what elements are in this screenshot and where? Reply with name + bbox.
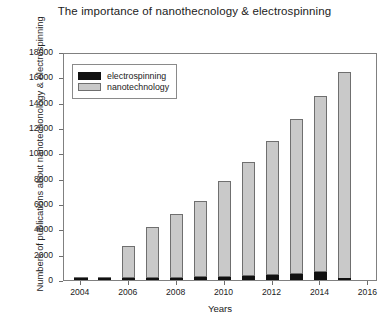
y-tick-label: 6000 (34, 199, 53, 209)
bar-segment-nanotechnology (242, 162, 256, 276)
bar-segment-electrospinning (242, 276, 256, 280)
y-tick-label: 12000 (29, 123, 53, 133)
legend-label-nanotechnology: nanotechnology (107, 82, 169, 92)
legend-item-electrospinning: electrospinning (78, 71, 169, 81)
x-tick-label: 2012 (256, 287, 288, 297)
bar-segment-electrospinning (122, 278, 136, 280)
x-axis-ticks: 2004200620082010201220142016 (63, 281, 377, 305)
x-tick-label: 2004 (64, 287, 96, 297)
bar-segment-nanotechnology (122, 246, 136, 279)
bar-segment-nanotechnology (170, 214, 184, 278)
x-axis-label: Years (63, 303, 377, 314)
legend-label-electrospinning: electrospinning (107, 71, 166, 81)
legend-swatch-nanotechnology (78, 83, 101, 91)
y-tick-label: 14000 (29, 98, 53, 108)
chart-legend: electrospinningnanotechnology (72, 64, 177, 99)
bar-group (122, 246, 136, 280)
x-tick-mark (80, 281, 81, 285)
bar-segment-nanotechnology (338, 72, 352, 279)
y-tick-label: 18000 (29, 47, 53, 57)
bar-segment-nanotechnology (146, 227, 160, 278)
x-tick-label: 2014 (303, 287, 335, 297)
bar-segment-nanotechnology (194, 201, 208, 278)
y-tick-label: 16000 (29, 72, 53, 82)
legend-item-nanotechnology: nanotechnology (78, 82, 169, 92)
chart-figure: The importance of nanothecnology & elect… (0, 0, 389, 329)
x-tick-mark (176, 281, 177, 285)
bar-segment-electrospinning (194, 277, 208, 280)
legend-swatch-electrospinning (78, 72, 101, 80)
bar-group (218, 181, 232, 280)
bar-segment-nanotechnology (218, 181, 232, 277)
x-tick-mark (128, 281, 129, 285)
x-tick-label: 2010 (208, 287, 240, 297)
x-tick-label: 2006 (112, 287, 144, 297)
bar-segment-electrospinning (290, 274, 304, 280)
bar-group (242, 162, 256, 280)
bar-segment-nanotechnology (314, 96, 328, 272)
x-tick-mark (367, 281, 368, 285)
bar-segment-electrospinning (218, 277, 232, 280)
bar-segment-electrospinning (98, 278, 112, 280)
x-tick-mark (272, 281, 273, 285)
y-tick-label: 2000 (34, 250, 53, 260)
x-tick-mark (319, 281, 320, 285)
bar-group (74, 279, 88, 280)
bar-segment-nanotechnology (266, 141, 280, 276)
x-tick-mark (224, 281, 225, 285)
chart-title: The importance of nanothecnology & elect… (0, 5, 389, 17)
bar-group (170, 214, 184, 281)
bar-segment-electrospinning (314, 272, 328, 280)
bar-group (194, 201, 208, 280)
bar-segment-electrospinning (74, 278, 88, 280)
bar-group (338, 72, 352, 280)
y-tick-label: 8000 (34, 174, 53, 184)
y-tick-label: 10000 (29, 148, 53, 158)
bar-group (314, 96, 328, 280)
bar-segment-electrospinning (338, 278, 352, 280)
x-tick-label: 2016 (351, 287, 383, 297)
bar-group (98, 279, 112, 280)
bar-group (266, 141, 280, 280)
bar-segment-electrospinning (170, 278, 184, 280)
y-tick-label: 4000 (34, 224, 53, 234)
bar-segment-electrospinning (266, 275, 280, 280)
bar-group (290, 119, 304, 280)
bar-group (146, 227, 160, 280)
y-tick-label: 0 (48, 275, 53, 285)
y-axis-ticks: 0200040006000800010000120001400016000180… (0, 53, 63, 281)
x-tick-label: 2008 (160, 287, 192, 297)
bar-segment-electrospinning (146, 278, 160, 280)
bar-segment-nanotechnology (290, 119, 304, 274)
